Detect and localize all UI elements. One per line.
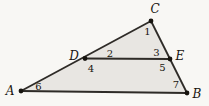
segment-DE <box>85 59 170 60</box>
vertex-label-D: D <box>68 49 79 63</box>
vertex-label-E: E <box>175 49 185 63</box>
vertex-dot-E <box>168 57 173 62</box>
triangle-diagram-svg: ABCDE1234567 <box>0 0 209 106</box>
vertex-dot-C <box>149 19 154 24</box>
angle-label-3: 3 <box>153 47 159 58</box>
vertex-label-C: C <box>150 2 159 16</box>
angle-label-7: 7 <box>173 79 179 90</box>
vertex-label-A: A <box>5 84 15 98</box>
angle-label-6: 6 <box>35 81 41 92</box>
vertex-dot-A <box>19 89 24 94</box>
angle-label-4: 4 <box>88 63 94 74</box>
angle-label-5: 5 <box>159 62 165 73</box>
vertex-label-B: B <box>192 87 202 101</box>
angle-label-1: 1 <box>144 26 150 37</box>
vertex-dot-B <box>185 91 190 96</box>
angle-label-2: 2 <box>107 48 113 59</box>
geometry-figure: ABCDE1234567 <box>0 0 209 106</box>
vertex-dot-D <box>83 56 88 61</box>
